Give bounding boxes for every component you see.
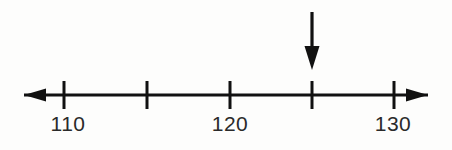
- tick-label-130: 130: [375, 113, 412, 134]
- axis-right-arrowhead-icon: [406, 89, 428, 102]
- tick-label-110: 110: [51, 113, 86, 134]
- tick-label-120: 120: [212, 113, 249, 134]
- value-pointer-arrow: [305, 12, 320, 70]
- number-line-figure: 110 120 130: [0, 0, 452, 150]
- pointer-arrowhead-icon: [305, 46, 320, 70]
- axis-left-arrowhead-icon: [24, 89, 46, 102]
